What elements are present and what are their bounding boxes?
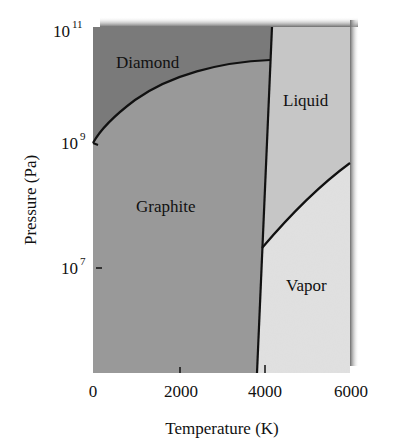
x-tick-label-6000: 6000 bbox=[334, 382, 368, 401]
svg-text:11: 11 bbox=[72, 18, 83, 30]
plot-shadow-right bbox=[350, 20, 359, 366]
x-axis-title: Temperature (K) bbox=[165, 419, 279, 438]
y-tick-label-1e11: 10 11 bbox=[53, 18, 83, 41]
svg-text:10: 10 bbox=[61, 134, 78, 153]
svg-text:7: 7 bbox=[80, 255, 86, 267]
svg-text:10: 10 bbox=[53, 22, 70, 41]
region-label-graphite: Graphite bbox=[136, 197, 195, 216]
phase-diagram-chart: 10 11 10 9 10 7 0 2000 4000 6000 Diamond… bbox=[0, 0, 396, 447]
x-tick-label-4000: 4000 bbox=[248, 382, 282, 401]
y-axis-title: Pressure (Pa) bbox=[21, 155, 40, 245]
region-label-vapor: Vapor bbox=[286, 276, 327, 295]
y-tick-label-1e7: 10 7 bbox=[61, 255, 86, 278]
svg-text:9: 9 bbox=[80, 130, 86, 142]
x-tick-label-2000: 2000 bbox=[164, 382, 198, 401]
y-tick-label-1e9: 10 9 bbox=[61, 130, 86, 153]
plot-texture bbox=[93, 27, 350, 373]
plot-shadow-top bbox=[100, 17, 358, 27]
x-tick-label-0: 0 bbox=[89, 382, 98, 401]
svg-text:10: 10 bbox=[61, 259, 78, 278]
region-label-diamond: Diamond bbox=[116, 53, 180, 72]
region-label-liquid: Liquid bbox=[283, 91, 329, 110]
